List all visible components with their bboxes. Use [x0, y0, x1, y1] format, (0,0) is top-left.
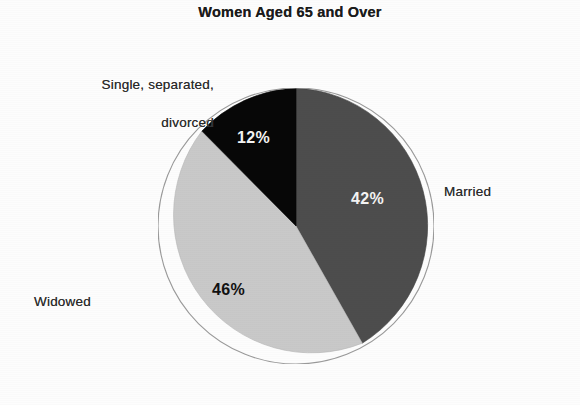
category-label-married: Married — [444, 182, 491, 201]
category-label-single-line2: divorced — [14, 113, 214, 132]
chart-title: Women Aged 65 and Over — [0, 4, 580, 20]
value-label-single-separated-divorced: 12% — [237, 129, 270, 147]
pie-chart-figure: Women Aged 65 and Over Single, separated… — [0, 0, 580, 405]
category-label-widowed: Widowed — [34, 292, 91, 311]
category-label-single-line1: Single, separated, — [102, 77, 214, 92]
value-label-married: 42% — [351, 190, 384, 208]
value-label-widowed: 46% — [212, 281, 245, 299]
category-label-single-separated-divorced: Single, separated, divorced — [14, 56, 214, 170]
